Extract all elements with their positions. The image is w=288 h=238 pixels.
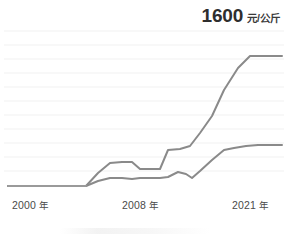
chart-screenshot: 1600 元/公斤 xyxy=(0,0,288,238)
chart-title: 1600 元/公斤 xyxy=(202,6,280,25)
gridlines xyxy=(4,31,284,171)
footer-artifact xyxy=(60,228,210,234)
x-axis-label-2021: 2021年 xyxy=(232,198,269,212)
series-line-upper xyxy=(8,56,282,186)
x-axis-labels: 2000年 2008年 2021年 xyxy=(0,198,288,216)
line-chart-svg xyxy=(0,28,288,190)
x-axis-label-2021-suffix: 年 xyxy=(259,200,269,211)
title-unit: 元/公斤 xyxy=(247,13,280,24)
x-axis-label-2000-suffix: 年 xyxy=(39,200,49,211)
x-axis-label-2000-value: 2000 xyxy=(12,199,36,211)
title-value: 1600 xyxy=(202,6,243,25)
plot-area xyxy=(0,28,288,190)
series-line-lower xyxy=(8,145,282,186)
x-axis-label-2008-value: 2008 xyxy=(122,199,146,211)
x-axis-label-2021-value: 2021 xyxy=(232,199,256,211)
x-axis-label-2008: 2008年 xyxy=(122,198,159,212)
x-axis-label-2000: 2000年 xyxy=(12,198,49,212)
x-axis-label-2008-suffix: 年 xyxy=(149,200,159,211)
